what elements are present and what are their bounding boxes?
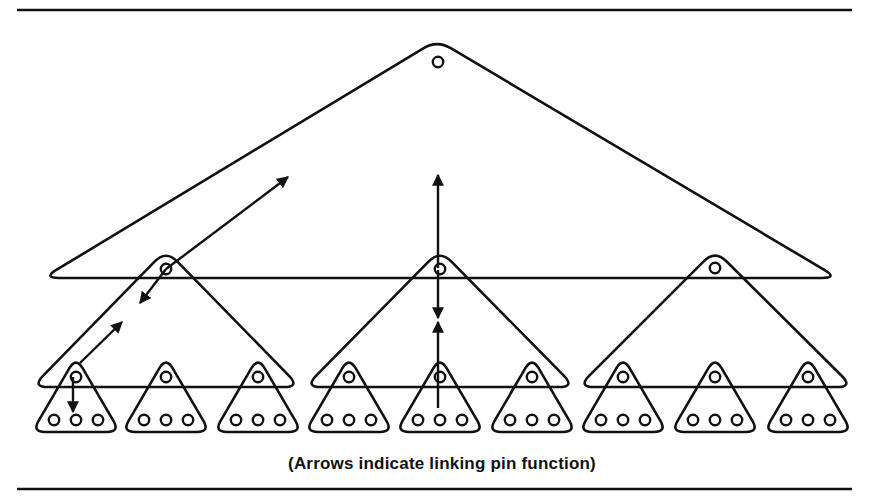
linking-pin-icon [618, 372, 628, 382]
linking-pin-icon [344, 372, 354, 382]
middle-level-group [39, 256, 294, 387]
member-pin-icon [825, 415, 835, 425]
member-pin-icon [322, 415, 332, 425]
member-pin-icon [275, 415, 285, 425]
middle-level-group [585, 256, 847, 387]
top-level-group [50, 44, 830, 278]
linking-pins [49, 57, 835, 425]
linking-pin-diagram [0, 0, 884, 498]
member-pin-icon [71, 415, 81, 425]
arrow-icon [80, 322, 122, 363]
linking-pin-icon [253, 372, 263, 382]
figure-caption: (Arrows indicate linking pin function) [0, 454, 884, 474]
member-pin-icon [710, 415, 720, 425]
member-pin-icon [781, 415, 791, 425]
member-pin-icon [640, 415, 650, 425]
member-pin-icon [803, 415, 813, 425]
member-pin-icon [49, 415, 59, 425]
linking-pin-icon [435, 372, 445, 382]
linking-pin-icon [161, 372, 171, 382]
member-pin-icon [93, 415, 103, 425]
member-pin-icon [435, 415, 445, 425]
member-pin-icon [688, 415, 698, 425]
member-pin-icon [183, 415, 193, 425]
linking-pin-icon [710, 263, 720, 273]
member-pin-icon [732, 415, 742, 425]
member-pin-icon [139, 415, 149, 425]
member-pin-icon [231, 415, 241, 425]
linking-pin-icon [710, 372, 720, 382]
member-pin-icon [344, 415, 354, 425]
member-pin-icon [549, 415, 559, 425]
member-pin-icon [413, 415, 423, 425]
pin-icon [433, 57, 443, 67]
member-pin-icon [596, 415, 606, 425]
member-pin-icon [618, 415, 628, 425]
member-pin-icon [366, 415, 376, 425]
member-pin-icon [457, 415, 467, 425]
member-pin-icon [527, 415, 537, 425]
linking-pin-icon [435, 264, 445, 274]
member-pin-icon [253, 415, 263, 425]
arrow-icon [166, 177, 288, 269]
linking-pin-icon [803, 372, 813, 382]
member-pin-icon [505, 415, 515, 425]
linking-pin-icon [527, 372, 537, 382]
member-pin-icon [161, 415, 171, 425]
